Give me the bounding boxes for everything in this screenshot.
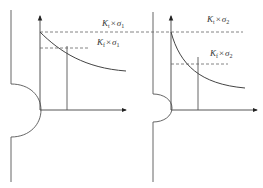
k-subscript: t bbox=[213, 19, 215, 25]
k-subscript: f bbox=[216, 53, 218, 59]
left-plate-edge-with-notch bbox=[11, 10, 41, 182]
sigma-subscript: 2 bbox=[226, 19, 229, 25]
notch-stress-diagram bbox=[0, 0, 263, 188]
left-kf-label: Kf×σ1 bbox=[97, 38, 120, 48]
sigma-subscript: 2 bbox=[230, 53, 233, 59]
right-kt-label: Kt×σ2 bbox=[207, 15, 229, 25]
right-kf-label: Kf×σ2 bbox=[210, 49, 233, 59]
times-symbol: × bbox=[216, 14, 221, 24]
k-subscript: f bbox=[103, 42, 105, 48]
right-stress-curve bbox=[171, 32, 245, 88]
left-panel bbox=[11, 10, 131, 182]
right-plate-edge-with-notch bbox=[153, 12, 172, 182]
times-symbol: × bbox=[219, 48, 224, 58]
sigma-subscript: 1 bbox=[121, 23, 124, 29]
sigma-subscript: 1 bbox=[117, 42, 120, 48]
times-symbol: × bbox=[106, 37, 111, 47]
times-symbol: × bbox=[111, 18, 116, 28]
left-kt-label: Kt×σ1 bbox=[102, 19, 124, 29]
right-panel bbox=[131, 12, 257, 182]
k-subscript: t bbox=[108, 23, 110, 29]
